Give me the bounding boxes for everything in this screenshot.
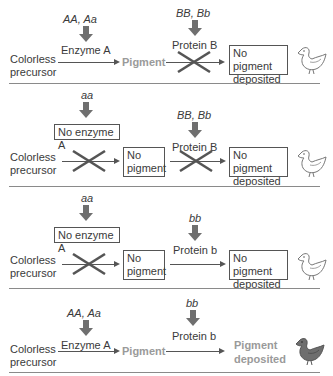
blocked-x-icon [72, 150, 106, 172]
arrow-line [170, 264, 222, 265]
gene-a-genotype: aa [81, 192, 93, 205]
divider [9, 83, 320, 84]
white-chick-icon [296, 45, 328, 75]
intermediate-box: No pigment [123, 147, 165, 177]
blocked-x-icon [179, 150, 213, 172]
result-box: No pigment deposited [229, 250, 288, 280]
result-box: No pigment deposited [229, 147, 288, 177]
start-label-line1: Colorless [10, 53, 56, 66]
result-line1: No pigment [233, 149, 284, 175]
gene-b-genotype: bb [186, 297, 198, 310]
arrowhead-icon [220, 261, 226, 267]
result-line2: deposited [233, 278, 284, 291]
divider [9, 372, 320, 373]
gene-b-genotype: bb [189, 212, 201, 225]
divider [9, 288, 320, 289]
arrow-line [166, 351, 220, 352]
start-label-line1: Colorless [10, 151, 56, 164]
gene-b-genotype: BB, Bb [177, 109, 211, 122]
down-arrow-icon [77, 205, 95, 221]
gene-b-genotype: BB, Bb [176, 7, 210, 20]
white-chick-icon [296, 148, 328, 178]
arrowhead-icon [114, 261, 120, 267]
result-line1: No pigment [233, 252, 284, 278]
start-label-line2: precursor [10, 356, 56, 369]
arrowhead-icon [114, 59, 120, 65]
start-label-line1: Colorless [10, 254, 56, 267]
blocked-x-icon [177, 51, 211, 73]
intermediate-line1: No [127, 149, 161, 162]
result-line1: No pigment [233, 47, 284, 73]
result-line2: deposited [234, 353, 286, 366]
down-arrow-icon [77, 320, 95, 336]
start-label-line2: precursor [10, 66, 56, 79]
arrow-line [58, 351, 116, 352]
gene-a-genotype: AA, Aa [63, 13, 97, 26]
arrow-line [58, 62, 116, 63]
start-label-line2: precursor [10, 267, 56, 280]
start-label-line2: precursor [10, 164, 56, 177]
pigment-label: Pigment [122, 345, 165, 358]
enzyme-label: No enzyme A [58, 229, 114, 254]
pigment-label: Pigment [122, 56, 165, 69]
white-chick-icon [296, 251, 328, 281]
gene-a-genotype: aa [81, 89, 93, 102]
intermediate-line1: No [127, 252, 161, 265]
enzyme-box: No enzyme A [54, 227, 120, 243]
arrowhead-icon [219, 348, 225, 354]
result-box: No pigment deposited [229, 45, 288, 75]
intermediate-box: No pigment [123, 250, 165, 280]
down-arrow-icon [77, 26, 95, 42]
down-arrow-icon [186, 122, 204, 138]
down-arrow-icon [186, 20, 204, 36]
gene-a-genotype: AA, Aa [67, 307, 101, 320]
arrowhead-icon [114, 158, 120, 164]
protein-label: Protein b [173, 244, 217, 257]
enzyme-label: Enzyme A [61, 44, 111, 57]
blocked-x-icon [72, 253, 106, 275]
divider [9, 186, 320, 187]
arrowhead-icon [114, 348, 120, 354]
arrowhead-icon [220, 158, 226, 164]
enzyme-box: No enzyme A [54, 124, 120, 140]
intermediate-line2: pigment [127, 265, 161, 278]
arrowhead-icon [219, 59, 225, 65]
result-line2: deposited [233, 73, 284, 86]
down-arrow-icon [184, 310, 202, 326]
enzyme-label: No enzyme A [58, 126, 114, 151]
result-line1: Pigment [234, 339, 277, 352]
down-arrow-icon [186, 225, 204, 241]
pigmented-chick-icon [294, 336, 326, 366]
intermediate-line2: pigment [127, 162, 161, 175]
start-label-line1: Colorless [10, 343, 56, 356]
down-arrow-icon [77, 102, 95, 118]
protein-label: Protein b [172, 330, 216, 343]
